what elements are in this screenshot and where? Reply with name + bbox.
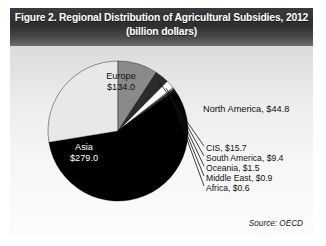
slice-label-asia-name: Asia <box>51 142 117 153</box>
figure-panel: Figure 2. Regional Distribution of Agric… <box>10 8 313 236</box>
source-note: Source: OECD <box>249 219 303 228</box>
slice-label-middle-east: Middle East, $0.9 <box>206 173 272 183</box>
slice-label-europe: Europe $134.0 <box>88 71 154 93</box>
slice-label-africa: Africa, $0.6 <box>206 183 249 193</box>
pie-chart-svg <box>10 8 313 236</box>
slice-label-europe-name: Europe <box>88 71 154 82</box>
slice-label-asia-value: $279.0 <box>51 153 117 164</box>
slice-label-oceania: Oceania, $1.5 <box>206 163 260 173</box>
pie-chart <box>10 8 313 236</box>
slice-label-europe-value: $134.0 <box>88 82 154 93</box>
slice-label-asia: Asia $279.0 <box>51 142 117 164</box>
slice-label-cis: CIS, $15.7 <box>206 143 247 153</box>
slice-label-north-america: North America, $44.8 <box>203 104 289 115</box>
slice-label-south-america: South America, $9.4 <box>206 153 283 163</box>
